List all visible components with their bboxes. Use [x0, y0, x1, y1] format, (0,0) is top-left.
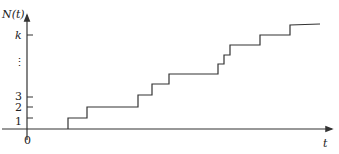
y-tick-label-k: k: [15, 29, 22, 42]
y-tick-label-3: 3: [15, 90, 22, 103]
x-axis-label: t: [323, 137, 328, 150]
step-function-line: [68, 24, 320, 129]
y-tick-label-dots: ⋮: [14, 56, 25, 69]
y-tick-label-1: 1: [15, 115, 22, 128]
origin-label: 0: [24, 134, 31, 147]
y-axis-label: N(t): [1, 8, 25, 21]
counting-process-diagram: N(t) t 0 1 2 3 ⋮ k: [0, 0, 339, 154]
